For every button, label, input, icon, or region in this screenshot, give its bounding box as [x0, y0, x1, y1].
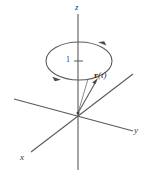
origin-point: [77, 112, 80, 115]
position-vector-label: r(t): [94, 71, 107, 80]
position-vector-line: [78, 81, 97, 114]
position-vector-label-argument: (t): [98, 70, 107, 80]
x-axis-line: [31, 74, 133, 152]
circle-direction-arrow-bottom: [52, 77, 61, 81]
figure-canvas: z y x 1 r(t): [0, 0, 153, 174]
y-axis-line: [14, 99, 133, 131]
y-axis-label: y: [134, 126, 138, 135]
diagram-svg: [0, 0, 153, 174]
z-axis-label: z: [75, 3, 79, 12]
origin-guide-line: [78, 79, 88, 113]
circle-direction-arrow-top: [98, 41, 106, 45]
x-axis-label: x: [20, 153, 24, 162]
z-tick-label: 1: [66, 56, 70, 64]
